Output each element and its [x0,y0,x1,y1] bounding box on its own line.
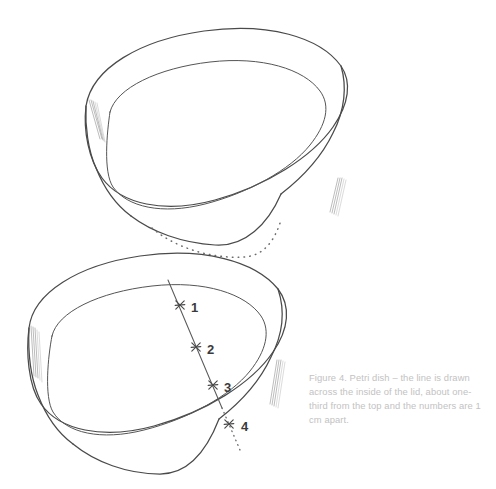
measurement-numbers: 1234 [191,300,249,434]
lid-wall-right-edge [281,66,344,194]
x-mark-4 [224,420,234,428]
figure-root: 1234 Figure 4. Petri dish – the line is … [0,0,496,489]
lid-group [85,28,347,257]
lid-bottom-rim-hidden-arc [152,220,281,257]
base-inner-rim-path [48,285,267,435]
mark-number-1: 1 [191,300,198,315]
measurement-marks [175,301,234,428]
measurement-line-group: 1234 [168,280,249,450]
base-outer-rim-path [28,253,287,432]
base-dish-group [28,253,287,474]
mark-number-2: 2 [207,342,214,357]
base-wall-left-edge [29,328,73,444]
base-right-hatching [270,360,285,408]
lid-left-hatching [89,100,105,142]
mark-number-4: 4 [241,419,249,434]
mark-number-3: 3 [224,380,231,395]
base-left-hatching [31,326,42,382]
lid-outer-rim-path [85,28,347,206]
figure-caption: Figure 4. Petri dish – the line is drawn… [309,371,489,427]
lid-right-hatching [330,178,346,216]
lid-inner-rim-path [107,61,326,209]
x-mark-2 [191,343,201,351]
base-bottom-rim-front-arc [73,419,219,474]
